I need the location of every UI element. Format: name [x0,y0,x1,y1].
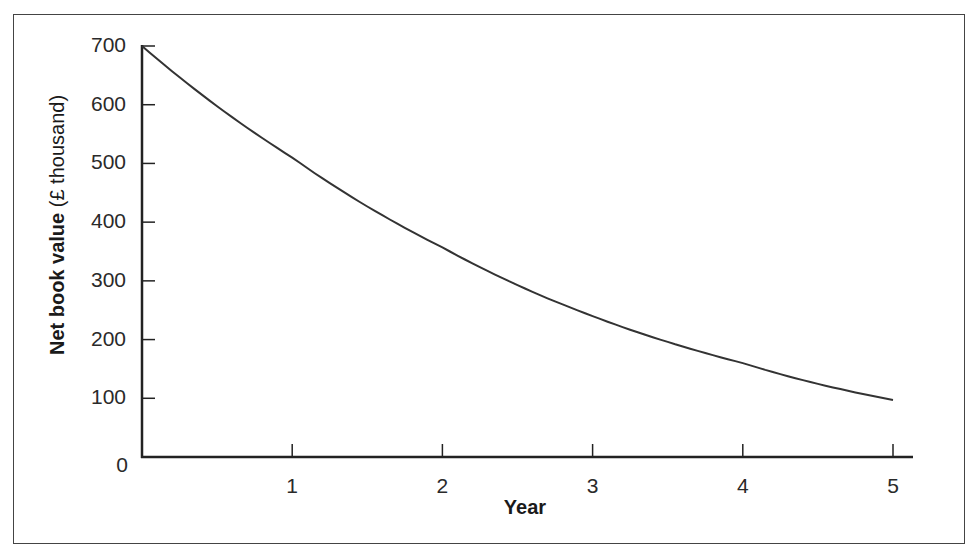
x-tick-label: 5 [878,474,908,498]
chart-plot-area [0,0,978,560]
x-tick-label: 4 [728,474,758,498]
y-axis-label-main: Net book value [46,213,68,355]
x-axis-label: Year [480,496,570,519]
y-tick-label: 600 [66,92,126,116]
net-book-value-line [142,46,893,400]
y-axis-label-unit: (£ thousand) [46,95,68,207]
x-tick-label: 2 [427,474,457,498]
axes [141,45,913,458]
y-tick-label: 300 [66,268,126,292]
x-tick-label: 3 [578,474,608,498]
y-tick-label: 100 [66,385,126,409]
y-tick-label: 500 [66,150,126,174]
y-tick-label: 700 [66,33,126,57]
y-axis-label: Net book value (£ thousand) [46,95,69,355]
y-tick-label: 400 [66,209,126,233]
x-tick-label: 1 [277,474,307,498]
y-tick-label: 0 [68,453,128,477]
y-tick-label: 200 [66,327,126,351]
